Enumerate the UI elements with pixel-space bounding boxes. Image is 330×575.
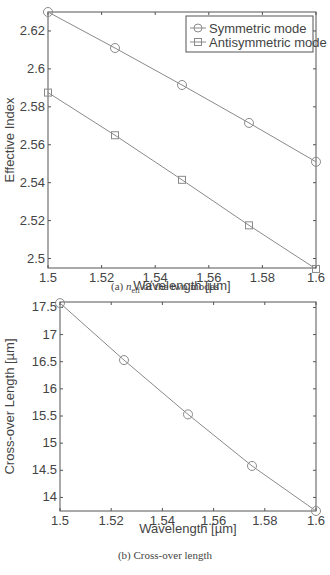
y-tick-label: 17 (43, 327, 57, 342)
legend: Symmetric modeAntisymmetric mode (186, 16, 327, 52)
caption-a-rest: of the two modes (140, 280, 219, 292)
footer-text-cutoff (0, 563, 330, 575)
y-tick-label: 16 (43, 381, 57, 396)
y-axis-label: Effective Index (2, 97, 17, 183)
y-tick-label: 2.58 (20, 99, 45, 114)
x-tick-label: 1.5 (51, 513, 69, 528)
y-tick-label: 2.56 (20, 137, 45, 152)
series-line (48, 93, 316, 269)
caption-a-sub: eff (131, 286, 140, 295)
y-tick-label: 14.5 (32, 462, 57, 477)
y-tick-label: 2.52 (20, 213, 45, 228)
caption-b: (b) Cross-over length (0, 549, 330, 561)
caption-a-prefix: (a) (111, 280, 126, 292)
y-tick-label: 2.6 (27, 61, 45, 76)
axes-frame (60, 302, 316, 511)
y-tick-label: 15 (43, 435, 57, 450)
y-tick-label: 17.5 (32, 299, 57, 314)
y-tick-label: 14 (43, 489, 57, 504)
chart-b: 1.51.521.541.561.581.61414.51515.51616.5… (2, 299, 325, 536)
y-tick-label: 2.54 (20, 175, 45, 190)
y-tick-label: 2.62 (20, 23, 45, 38)
y-tick-label: 2.5 (27, 251, 45, 266)
x-axis-label: Wavelength [µm] (139, 521, 236, 536)
caption-a: (a) neff of the two modes (0, 280, 330, 295)
series-line (60, 303, 316, 511)
chart-a: 1.51.521.541.561.581.62.52.522.542.562.5… (2, 8, 327, 294)
legend-entry: Antisymmetric mode (209, 35, 327, 50)
y-axis-label: Cross-over Length [µm] (2, 338, 17, 474)
y-tick-label: 16.5 (32, 354, 57, 369)
x-tick-label: 1.58 (252, 513, 277, 528)
x-tick-label: 1.52 (99, 513, 124, 528)
y-tick-label: 15.5 (32, 408, 57, 423)
legend-entry: Symmetric mode (209, 21, 307, 36)
